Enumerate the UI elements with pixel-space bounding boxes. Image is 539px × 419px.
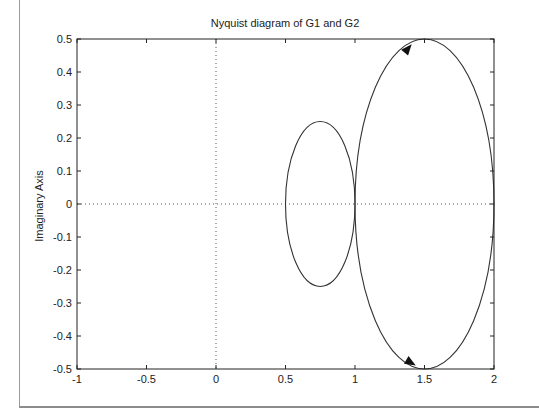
y-tick-label: -0.4 [53,330,72,342]
x-tick-label: 1 [352,373,358,385]
y-tick-label: 0 [66,198,72,210]
y-tick-label: -0.2 [53,264,72,276]
x-tick-label: 0.5 [278,373,293,385]
y-tick-label: 0.3 [57,99,72,111]
y-tick-label: 0.4 [57,66,72,78]
plot-area [77,39,494,369]
chart-title: Nyquist diagram of G1 and G2 [211,17,360,29]
x-tick-label: 1.5 [417,373,432,385]
x-axis-ticks: -1-0.500.511.52 [72,39,497,385]
x-tick-label: -1 [72,373,82,385]
y-axis-label: Imaginary Axis [33,170,45,242]
x-tick-label: 2 [491,373,497,385]
y-tick-label: 0.2 [57,132,72,144]
x-tick-label: -0.5 [137,373,156,385]
nyquist-curve-g1 [286,122,356,287]
y-tick-label: -0.3 [53,297,72,309]
y-tick-label: 0.5 [57,33,72,45]
y-tick-label: 0.1 [57,165,72,177]
y-tick-label: -0.5 [53,363,72,375]
x-tick-label: 0 [213,373,219,385]
y-tick-label: -0.1 [53,231,72,243]
